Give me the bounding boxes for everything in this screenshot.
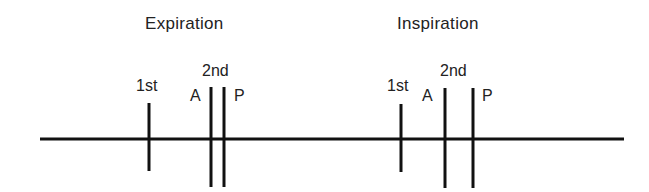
inspiration-second-sound-label: 2nd [440, 63, 467, 79]
timing-diagram [0, 0, 649, 192]
expiration-title: Expiration [145, 15, 224, 32]
expiration-first-sound-label: 1st [136, 78, 157, 94]
inspiration-title: Inspiration [397, 15, 479, 32]
inspiration-pulmonic-label: P [482, 88, 493, 104]
expiration-aortic-label: A [190, 88, 201, 104]
inspiration-aortic-label: A [422, 88, 433, 104]
inspiration-first-sound-label: 1st [387, 78, 408, 94]
expiration-second-sound-label: 2nd [202, 63, 229, 79]
expiration-pulmonic-label: P [234, 88, 245, 104]
